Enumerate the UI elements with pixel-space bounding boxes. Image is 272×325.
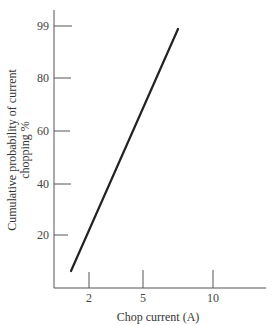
y-tick-label: 99 <box>37 19 49 33</box>
y-tick-label: 80 <box>37 71 49 85</box>
x-axis-label: Chop current (A) <box>117 310 200 324</box>
y-tick-label: 60 <box>37 124 49 138</box>
series-line <box>71 29 178 271</box>
x-tick-label: 2 <box>86 291 92 305</box>
y-axis-label-line1: Cumulative probability of current <box>5 69 19 231</box>
x-tick-label: 10 <box>207 291 219 305</box>
y-tick-label: 40 <box>37 177 49 191</box>
chart: 99 80 60 40 20 2 5 10 Chop current (A) C… <box>0 0 272 325</box>
x-tick-label: 5 <box>140 291 146 305</box>
y-axis-label-line2: chopping % <box>18 121 32 179</box>
y-tick-label: 20 <box>37 228 49 242</box>
